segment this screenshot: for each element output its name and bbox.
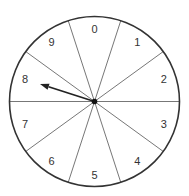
- sector-label-5: 5: [91, 169, 97, 181]
- sector-label-9: 9: [49, 36, 55, 48]
- sector-label-0: 0: [91, 23, 97, 35]
- sector-label-8: 8: [22, 73, 28, 85]
- sector-divider: [95, 102, 164, 152]
- sector-divider: [95, 102, 121, 183]
- sector-label-3: 3: [161, 118, 167, 130]
- arrowhead-icon: [40, 84, 50, 90]
- sector-label-6: 6: [49, 155, 55, 167]
- spinner-diagram: 0123456789: [0, 0, 189, 196]
- sector-label-1: 1: [134, 36, 140, 48]
- sector-divider: [95, 52, 164, 102]
- spinner-hub: [92, 99, 98, 105]
- sector-label-7: 7: [22, 118, 28, 130]
- pointer-shaft: [49, 87, 95, 102]
- sector-label-2: 2: [161, 73, 167, 85]
- sector-divider: [95, 21, 121, 102]
- sector-divider: [26, 102, 95, 152]
- spinner: 0123456789: [0, 0, 189, 196]
- sector-label-4: 4: [134, 155, 140, 167]
- sector-divider: [26, 52, 95, 102]
- pointer-arrow[interactable]: [40, 84, 95, 102]
